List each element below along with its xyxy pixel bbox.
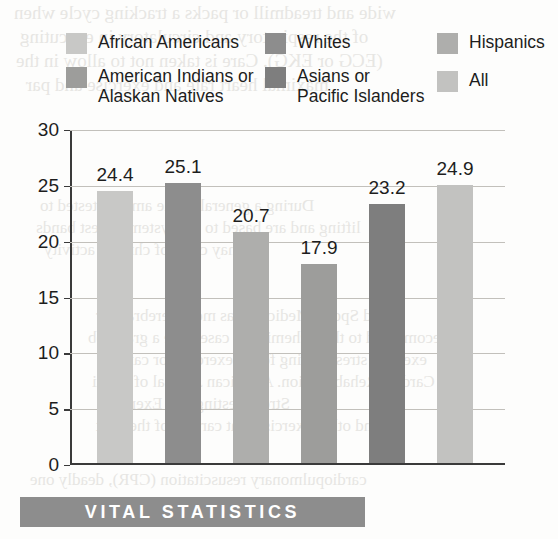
legend-swatch xyxy=(437,33,458,54)
y-axis-tick-label: 10 xyxy=(38,342,59,364)
bar-value-label: 23.2 xyxy=(369,177,406,199)
legend-swatch xyxy=(265,33,286,54)
y-axis-tick-label: 0 xyxy=(48,454,59,476)
legend-swatch xyxy=(66,33,87,54)
bar: 24.4 xyxy=(97,191,133,463)
bar: 23.2 xyxy=(369,204,405,463)
y-axis-tick xyxy=(64,130,70,131)
bar: 17.9 xyxy=(301,264,337,464)
bar-value-label: 24.9 xyxy=(437,158,474,180)
legend-label: American Indians or Alaskan Natives xyxy=(98,66,254,106)
y-axis-tick-label: 20 xyxy=(38,231,59,253)
banner-title: VITAL STATISTICS xyxy=(85,502,300,523)
legend-item: All xyxy=(437,70,488,92)
legend-item: Whites xyxy=(265,32,350,54)
legend-item: American Indians or Alaskan Natives xyxy=(66,66,254,106)
legend-swatch xyxy=(66,67,87,88)
y-axis-tick-label: 5 xyxy=(48,398,59,420)
x-axis-line xyxy=(70,463,505,465)
legend-label: All xyxy=(469,70,488,90)
bar: 24.9 xyxy=(437,185,473,463)
legend-item: Asians or Pacific Islanders xyxy=(265,66,424,106)
y-axis-tick xyxy=(64,409,70,410)
legend-label: Asians or Pacific Islanders xyxy=(297,66,424,106)
legend-label: Hispanics xyxy=(469,32,545,52)
legend-item: Hispanics xyxy=(437,32,545,54)
legend-swatch xyxy=(437,71,458,92)
chart-plot-area: 302520151050 24.425.120.717.923.224.9 xyxy=(70,130,505,465)
legend-item: African Americans xyxy=(66,32,239,54)
y-axis-tick-label: 15 xyxy=(38,287,59,309)
bar-value-label: 17.9 xyxy=(301,237,338,259)
legend-label: African Americans xyxy=(98,32,239,52)
y-axis-tick xyxy=(64,353,70,354)
y-axis-tick-label: 25 xyxy=(38,175,59,197)
bar: 20.7 xyxy=(233,232,269,463)
bar: 25.1 xyxy=(165,183,201,463)
y-axis-tick-label: 30 xyxy=(38,119,59,141)
y-axis-tick xyxy=(64,298,70,299)
bar-value-label: 25.1 xyxy=(165,156,202,178)
bleed-line: wide and treadmill or packs a tracking c… xyxy=(14,2,396,24)
vital-statistics-banner: VITAL STATISTICS xyxy=(20,497,365,527)
bleed-line: cardiopulmonary resuscitation (CPR), dea… xyxy=(30,470,367,490)
y-axis-tick xyxy=(64,465,70,466)
bar-value-label: 20.7 xyxy=(233,205,270,227)
y-axis-tick xyxy=(64,186,70,187)
bar-value-label: 24.4 xyxy=(97,164,134,186)
y-axis-tick xyxy=(64,242,70,243)
chart-legend: African AmericansWhitesHispanicsAmerican… xyxy=(0,30,558,112)
gridline xyxy=(70,130,505,131)
legend-swatch xyxy=(265,67,286,88)
legend-label: Whites xyxy=(297,32,350,52)
